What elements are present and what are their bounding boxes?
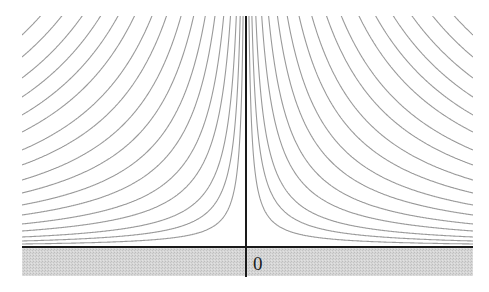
streamline bbox=[271, 0, 474, 215]
streamline bbox=[360, 0, 474, 97]
streamline bbox=[22, 0, 185, 165]
streamline bbox=[320, 0, 474, 150]
wall-region bbox=[22, 247, 473, 276]
streamline bbox=[334, 0, 474, 132]
stagnation-flow-diagram: 0 bbox=[0, 0, 489, 292]
streamline bbox=[22, 0, 174, 150]
streamline bbox=[22, 0, 244, 244]
streamline bbox=[407, 0, 474, 35]
origin-label: 0 bbox=[253, 253, 263, 274]
streamline bbox=[22, 0, 160, 132]
streamline bbox=[425, 0, 473, 11]
streamline bbox=[374, 0, 473, 78]
streamline bbox=[251, 0, 473, 241]
streamline bbox=[22, 0, 134, 97]
streamline bbox=[22, 0, 70, 11]
streamline bbox=[22, 0, 242, 241]
streamline bbox=[22, 0, 147, 115]
streamline bbox=[22, 0, 88, 35]
streamline bbox=[22, 0, 120, 78]
streamline bbox=[346, 0, 473, 115]
streamline bbox=[249, 0, 474, 244]
streamline bbox=[309, 0, 474, 165]
streamline bbox=[22, 0, 222, 215]
streamlines bbox=[22, 0, 473, 244]
